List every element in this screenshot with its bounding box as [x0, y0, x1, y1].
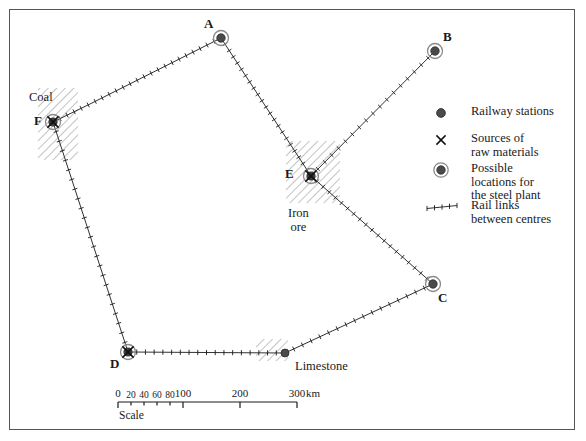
legend-symbol-rail-link-symbol	[427, 203, 457, 211]
link-E-B	[311, 51, 435, 176]
link-F-A	[53, 38, 221, 122]
scale-tick-200: 200	[231, 388, 249, 400]
link-C-Limestone	[285, 284, 433, 353]
legend-label-source-x: Sources ofraw materials	[471, 132, 539, 159]
node-label-e: E	[285, 167, 294, 181]
scale-tick-100: 100	[174, 388, 192, 400]
node-label-d: D	[110, 357, 119, 371]
legend-symbol-possible-location-symbol	[434, 163, 448, 177]
link-D-F	[53, 122, 128, 352]
node-label-a: A	[204, 17, 213, 31]
scale-bar-layer	[118, 402, 297, 408]
legend-label-railway-station: Railway stations	[471, 105, 554, 119]
link-E-C	[311, 176, 433, 284]
map-node-b[interactable]	[428, 44, 443, 59]
legend-label-rail-link: Rail linksbetween centres	[471, 199, 551, 226]
legend-symbol-layer	[427, 109, 457, 212]
legend-label-possible-location: Possiblelocations forthe steel plant	[471, 162, 540, 203]
scale-tick-300: 300	[288, 388, 306, 400]
link-A-E	[221, 38, 311, 176]
map-node-a[interactable]	[214, 31, 229, 46]
node-label-c: C	[438, 291, 447, 305]
node-layer	[46, 31, 443, 360]
scale-unit: km	[306, 388, 320, 400]
map-node-limestone[interactable]	[281, 349, 289, 357]
scale-caption: Scale	[119, 409, 144, 421]
resource-label-iron-ore: Ironore	[288, 207, 309, 234]
node-label-f: F	[34, 114, 42, 128]
rail-link-layer	[53, 38, 435, 356]
legend-symbol-railway-station-symbol	[437, 109, 446, 118]
resource-label-coal: Coal	[29, 91, 53, 105]
resource-label-limestone: Limestone	[295, 360, 348, 374]
legend-symbol-source-x-symbol	[436, 135, 445, 144]
node-label-b: B	[443, 30, 452, 44]
